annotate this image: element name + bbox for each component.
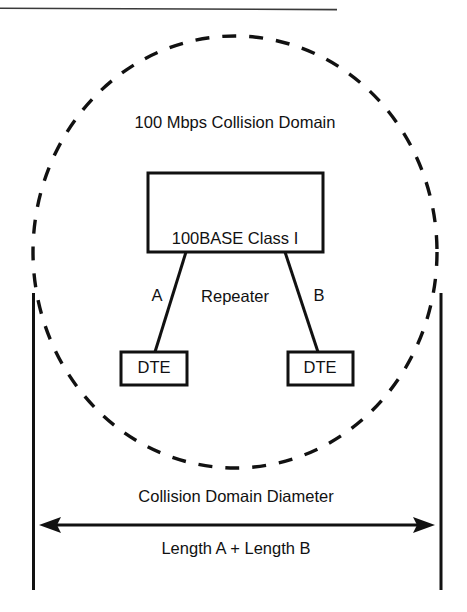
link-b-label: B	[313, 286, 324, 305]
repeater-label: 100BASE Class I Repeater	[172, 190, 299, 346]
repeater-label-line2: Repeater	[172, 287, 299, 306]
collision-domain-label: 100 Mbps Collision Domain	[135, 113, 336, 132]
dte-right-label: DTE	[304, 358, 337, 377]
dte-left-label: DTE	[138, 358, 171, 377]
top-horizontal-rule	[0, 8, 337, 9]
figure-canvas: 100 Mbps Collision Domain 100BASE Class …	[0, 0, 467, 612]
collision-domain-diameter-caption: Collision Domain Diameter	[138, 487, 333, 506]
length-sum-caption: Length A + Length B	[161, 539, 310, 558]
repeater-label-line1: 100BASE Class I	[172, 229, 299, 248]
link-a-label: A	[151, 286, 162, 305]
